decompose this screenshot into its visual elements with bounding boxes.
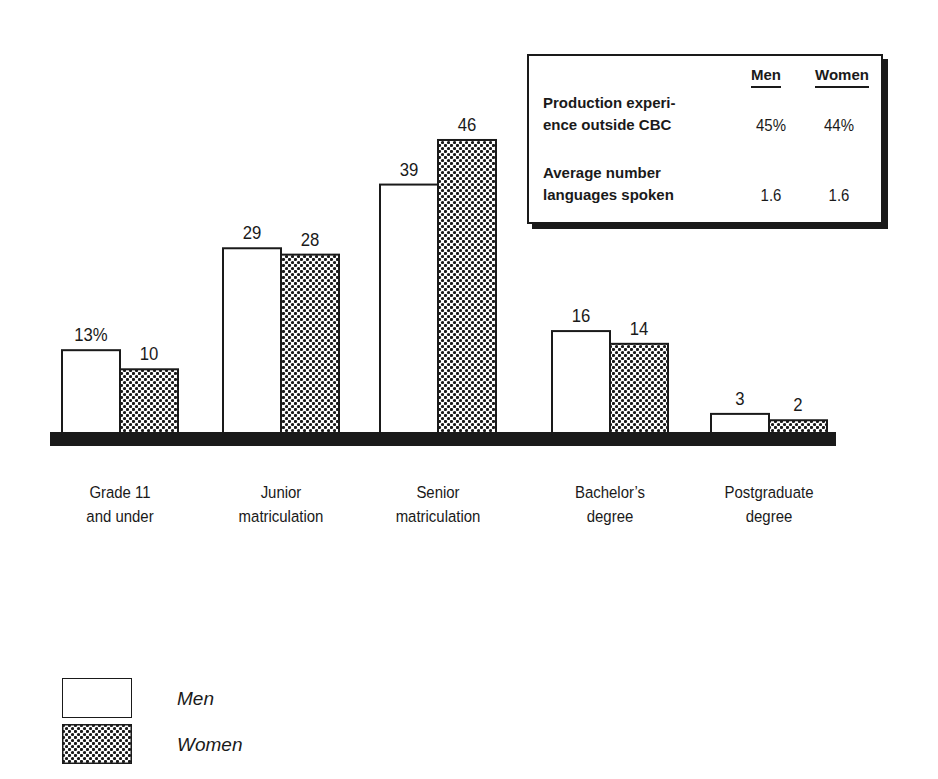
- bar-men-grade-11-and-under: [62, 350, 120, 433]
- category-labels-group: Grade 11and underJuniormatriculationSeni…: [86, 483, 813, 525]
- value-label-men-junior-matriculation: 29: [243, 222, 262, 243]
- value-label-women-grade-11-and-under: 10: [140, 343, 159, 364]
- bar-men-senior-matriculation: [380, 185, 438, 433]
- inset-header-men: Men: [751, 66, 781, 88]
- legend-swatch-women: [62, 724, 132, 764]
- category-label-junior-matriculation: matriculation: [239, 507, 324, 525]
- value-label-women-senior-matriculation: 46: [458, 114, 477, 135]
- category-label-senior-matriculation: Senior: [416, 483, 460, 501]
- legend-label-women: Women: [177, 734, 242, 756]
- value-label-women-postgraduate-degree: 2: [793, 394, 802, 415]
- inset-value-production-women: 44%: [813, 116, 866, 136]
- inset-row-label-line: Average number: [543, 162, 723, 184]
- bar-men-junior-matriculation: [223, 248, 281, 433]
- bar-men-postgraduate-degree: [711, 414, 769, 433]
- bar-women-junior-matriculation: [281, 255, 339, 433]
- category-label-bachelor-s-degree: degree: [587, 507, 634, 525]
- legend-label-men: Men: [177, 688, 214, 710]
- inset-value-languages-women: 1.6: [813, 186, 866, 206]
- value-label-men-postgraduate-degree: 3: [735, 388, 744, 409]
- bar-women-postgraduate-degree: [769, 420, 827, 433]
- category-label-grade-11-and-under: Grade 11: [89, 483, 150, 501]
- category-label-postgraduate-degree: degree: [746, 507, 793, 525]
- value-label-women-junior-matriculation: 28: [301, 229, 320, 250]
- inset-value-production-men: 45%: [745, 116, 798, 136]
- bar-women-grade-11-and-under: [120, 369, 178, 433]
- bar-men-bachelor-s-degree: [552, 331, 610, 433]
- value-label-women-bachelor-s-degree: 14: [630, 318, 649, 339]
- bar-women-senior-matriculation: [438, 140, 496, 433]
- inset-value-languages-men: 1.6: [745, 186, 798, 206]
- inset-row-label-line: languages spoken: [543, 184, 723, 206]
- category-label-bachelor-s-degree: Bachelor’s: [575, 483, 645, 501]
- value-label-men-bachelor-s-degree: 16: [572, 305, 591, 326]
- category-label-grade-11-and-under: and under: [86, 507, 154, 525]
- inset-row-label-line: ence outside CBC: [543, 114, 723, 136]
- category-label-junior-matriculation: Junior: [261, 483, 302, 501]
- inset-row-label-languages: Average number languages spoken: [543, 162, 723, 206]
- inset-row-label-line: Production experi-: [543, 92, 723, 114]
- category-label-senior-matriculation: matriculation: [396, 507, 481, 525]
- inset-header-women: Women: [815, 66, 869, 88]
- value-label-men-grade-11-and-under: 13%: [74, 324, 108, 345]
- inset-table: Men Women Production experi- ence outsid…: [527, 54, 883, 224]
- baseline-axis: [50, 432, 836, 446]
- value-label-men-senior-matriculation: 39: [400, 159, 419, 180]
- bar-women-bachelor-s-degree: [610, 344, 668, 433]
- category-label-postgraduate-degree: Postgraduate: [725, 483, 814, 501]
- legend-swatch-men: [62, 678, 132, 718]
- inset-row-label-production: Production experi- ence outside CBC: [543, 92, 723, 136]
